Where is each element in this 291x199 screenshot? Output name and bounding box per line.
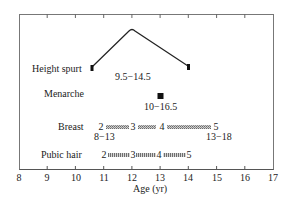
height-spurt-end-marker <box>187 64 190 70</box>
pubic-bar-4-5 <box>163 153 186 157</box>
x-axis-label: Age (yr) <box>133 183 167 194</box>
x-tick-9: 9 <box>45 172 50 183</box>
top-ticks <box>47 14 245 18</box>
height-spurt-start-marker <box>91 65 94 71</box>
x-tick-16: 16 <box>240 172 250 183</box>
height-spurt-curve <box>92 30 188 68</box>
breast-bar-4-5 <box>167 125 211 129</box>
x-tick-10: 10 <box>71 172 81 183</box>
x-tick-8: 8 <box>17 172 22 183</box>
height-spurt-range: 9.5−14.5 <box>115 71 151 82</box>
breast-label: Breast <box>58 121 84 132</box>
menarche-label: Menarche <box>44 88 84 99</box>
bottom-ticks <box>47 166 245 170</box>
pubic-stage-2: 2 <box>102 149 107 160</box>
breast-bar-3-4 <box>138 125 156 129</box>
breast-end-range: 13−18 <box>206 131 232 142</box>
breast-stage-4: 4 <box>160 121 165 132</box>
breast-stage-3: 3 <box>131 121 136 132</box>
x-tick-11: 11 <box>99 172 109 183</box>
pubic-stage-3: 3 <box>131 149 136 160</box>
x-tick-17: 17 <box>268 172 278 183</box>
x-tick-14: 14 <box>183 172 193 183</box>
menarche-range: 10−16.5 <box>144 101 177 112</box>
pubic-stage-5: 5 <box>187 149 192 160</box>
menarche-marker <box>158 93 164 99</box>
x-tick-15: 15 <box>212 172 222 183</box>
chart-graphics <box>0 0 291 199</box>
pubic-bar-3-4 <box>136 153 156 157</box>
x-tick-12: 12 <box>127 172 137 183</box>
pubic-stage-4: 4 <box>157 149 162 160</box>
breast-start-range: 8−13 <box>94 131 115 142</box>
height-spurt-label: Height spurt <box>32 63 82 74</box>
breast-bar-2-3 <box>106 125 129 129</box>
pubic-hair-label: Pubic hair <box>41 149 82 160</box>
pubic-bar-2-3 <box>108 153 130 157</box>
x-tick-13: 13 <box>155 172 165 183</box>
